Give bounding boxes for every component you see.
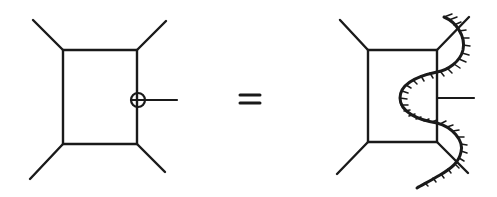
right-box-diagram [337, 14, 474, 188]
right-leg-top-left [340, 20, 368, 50]
diagram-canvas [0, 0, 497, 197]
right-box [368, 50, 437, 142]
left-leg-top-right [137, 21, 166, 50]
left-leg-top-left [33, 20, 63, 50]
right-leg-bottom-left [337, 142, 368, 174]
equals-sign [240, 95, 260, 103]
right-leg-bottom-right [437, 142, 468, 173]
left-leg-bottom-left [30, 144, 63, 179]
left-leg-bottom-right [137, 144, 165, 172]
hatched-cut-line [400, 14, 470, 188]
left-box [63, 50, 137, 144]
left-box-diagram [30, 20, 177, 179]
